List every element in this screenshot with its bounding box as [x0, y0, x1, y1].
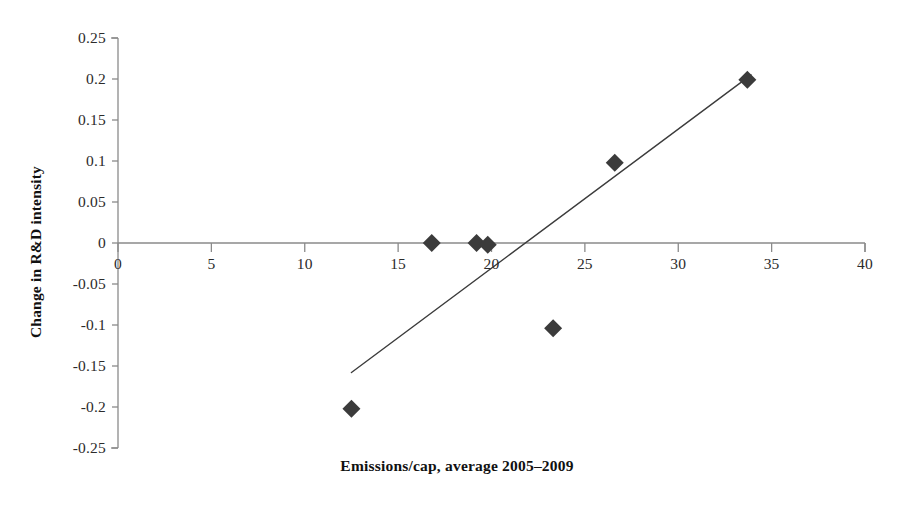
scatter-marker [544, 319, 562, 337]
scatter-marker [342, 400, 360, 418]
x-axis-tick-label: 5 [207, 255, 215, 273]
scatter-marker-group [342, 71, 756, 418]
x-axis-tick-label: 35 [764, 255, 780, 273]
x-axis-tick-label: 30 [670, 255, 686, 273]
y-axis-tick-label: -0.2 [20, 398, 106, 416]
plot-canvas [0, 0, 914, 508]
scatter-marker [738, 71, 756, 89]
x-axis-tick-label: 10 [297, 255, 313, 273]
x-axis-title: Emissions/cap, average 2005–2009 [0, 457, 914, 475]
y-axis-ticks [112, 38, 118, 448]
x-axis-tick-label: 40 [857, 255, 873, 273]
scatter-marker [479, 236, 497, 254]
y-axis-tick-label: 0.2 [20, 70, 106, 88]
y-axis-tick-label: -0.25 [20, 439, 106, 457]
y-axis-title: Change in R&D intensity [27, 137, 45, 367]
scatter-marker [423, 234, 441, 252]
x-axis-tick-label: 25 [577, 255, 593, 273]
y-axis-tick-label: 0.15 [20, 111, 106, 129]
x-axis-tick-label: 20 [484, 255, 500, 273]
x-axis-tick-label: 15 [390, 255, 406, 273]
x-axis-tick-label: 0 [114, 255, 122, 273]
scatter-chart-figure: 0.250.20.150.10.050-0.05-0.1-0.15-0.2-0.… [0, 0, 914, 508]
y-axis-tick-label: 0.25 [20, 29, 106, 47]
scatter-marker [606, 154, 624, 172]
